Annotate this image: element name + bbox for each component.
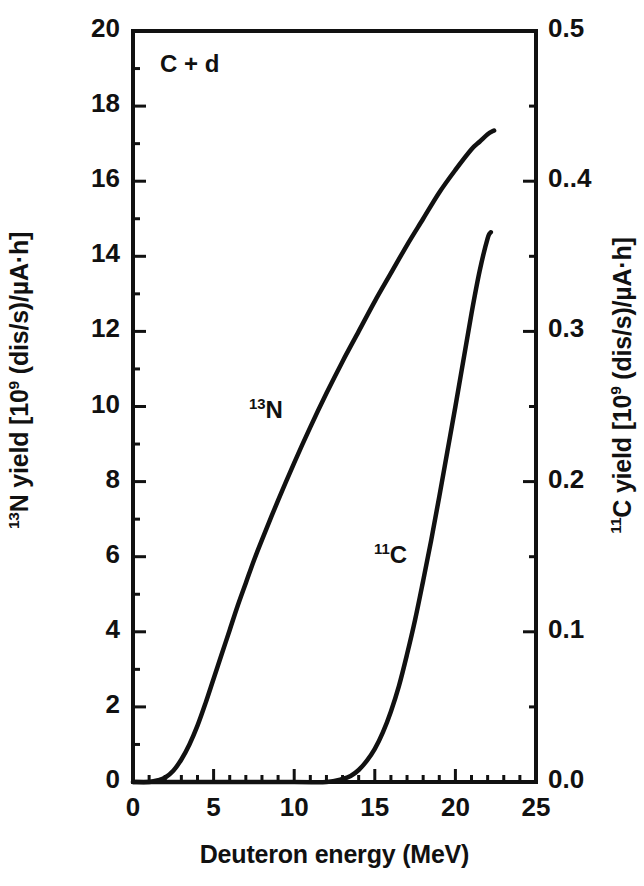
y-axis-left-title-main: N yield [10 bbox=[6, 389, 34, 512]
curve-11c bbox=[133, 232, 491, 782]
y-axis-left-tick-label: 10 bbox=[56, 389, 120, 420]
y-axis-right-tick-label: 0.5 bbox=[548, 13, 618, 44]
system-annotation: C + d bbox=[160, 50, 219, 78]
x-axis-tick-label: 25 bbox=[506, 792, 566, 823]
y-axis-left-tick-label: 8 bbox=[56, 464, 120, 495]
x-axis-tick-label: 20 bbox=[425, 792, 485, 823]
y-axis-right-title-main: C yield [10 bbox=[608, 394, 636, 517]
y-axis-left-tick-label: 16 bbox=[56, 163, 120, 194]
y-axis-right-title-isotope: 11 bbox=[607, 517, 624, 533]
y-axis-right-tick-label: 0.1 bbox=[548, 614, 618, 645]
curve-label-c11: 11C bbox=[374, 541, 407, 569]
y-axis-right-tick-label: 0.2 bbox=[548, 464, 618, 495]
plot-canvas bbox=[0, 0, 644, 886]
data-curves bbox=[133, 131, 494, 783]
x-axis-tick-label: 0 bbox=[103, 792, 163, 823]
curve-13n bbox=[133, 131, 494, 783]
y-axis-right-tick-label: 0..4 bbox=[548, 163, 618, 194]
y-axis-left-tick-label: 12 bbox=[56, 313, 120, 344]
y-axis-left-tick-label: 18 bbox=[56, 88, 120, 119]
y-axis-left-tick-label: 2 bbox=[56, 689, 120, 720]
curve-label-n13: 13N bbox=[249, 396, 283, 424]
x-axis-tick-label: 5 bbox=[184, 792, 244, 823]
curve-label-n13-element: N bbox=[266, 396, 283, 423]
y-axis-right-title-exponent: 9 bbox=[607, 386, 624, 394]
curve-label-n13-mass: 13 bbox=[249, 396, 266, 412]
y-axis-left-tick-label: 14 bbox=[56, 238, 120, 269]
y-axis-left-title-exponent: 9 bbox=[5, 380, 22, 388]
y-axis-left-title: 13N yield [109 (dis/s)/µA·h] bbox=[0, 0, 40, 760]
y-axis-left-tick-label: 0 bbox=[56, 764, 120, 795]
y-axis-left-tick-label: 4 bbox=[56, 614, 120, 645]
y-axis-right-tick-label: 0.3 bbox=[548, 313, 618, 344]
curve-label-c11-mass: 11 bbox=[374, 541, 390, 557]
x-axis-title: Deuteron energy (MeV) bbox=[133, 840, 536, 869]
x-axis-tick-label: 15 bbox=[345, 792, 405, 823]
curve-label-c11-element: C bbox=[390, 541, 407, 568]
y-axis-left-tick-label: 20 bbox=[56, 13, 120, 44]
y-axis-right-tick-label: 0.0 bbox=[548, 764, 618, 795]
y-axis-left-title-tail: (dis/s)/µA·h] bbox=[6, 231, 34, 380]
tick-marks bbox=[133, 69, 536, 782]
y-axis-right-title-tail: (dis/s)/µA·h] bbox=[608, 237, 636, 386]
x-axis-tick-label: 10 bbox=[264, 792, 324, 823]
y-axis-right-title: 11C yield [109 (dis/s)/µA·h] bbox=[600, 0, 644, 770]
y-axis-left-title-isotope: 13 bbox=[5, 512, 22, 529]
figure-root: 13N yield [109 (dis/s)/µA·h] 11C yield [… bbox=[0, 0, 644, 886]
y-axis-left-tick-label: 6 bbox=[56, 539, 120, 570]
